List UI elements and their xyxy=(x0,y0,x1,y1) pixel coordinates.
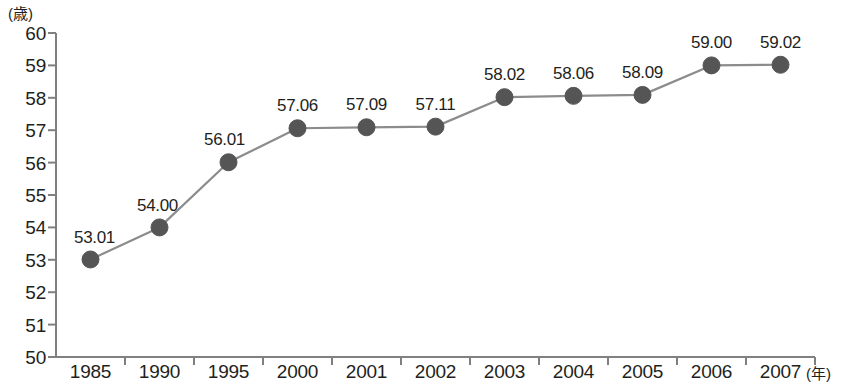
data-point-marker xyxy=(427,118,444,135)
data-point-marker xyxy=(289,120,306,137)
data-point-marker xyxy=(220,154,237,171)
data-point-marker xyxy=(151,219,168,236)
data-point-marker xyxy=(703,57,720,74)
data-point-marker xyxy=(496,89,513,106)
data-point-marker xyxy=(358,119,375,136)
data-point-marker xyxy=(772,56,789,73)
data-point-marker xyxy=(565,87,582,104)
data-point-marker xyxy=(82,251,99,268)
line-chart-plot xyxy=(0,0,845,389)
series-line xyxy=(91,65,781,260)
data-point-marker xyxy=(634,86,651,103)
chart-screenshot: (歳) 6059585756555453525150 1985199019952… xyxy=(0,0,845,389)
data-series xyxy=(82,56,789,268)
chart-axes xyxy=(48,33,815,365)
